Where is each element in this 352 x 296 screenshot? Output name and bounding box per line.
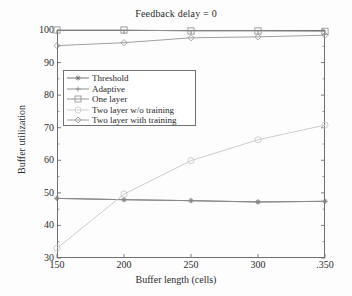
legend-label: Two layer w/o training: [90, 105, 174, 115]
star-marker: [76, 76, 81, 81]
chart-canvas: [0, 0, 352, 296]
legend-item[interactable]: Two layer w/o training: [64, 105, 195, 116]
legend-item[interactable]: Two layer with training: [64, 115, 195, 126]
legend-label: Two layer with training: [90, 115, 177, 125]
x-tick-label: .350: [303, 259, 347, 271]
legend-item[interactable]: Adaptive: [64, 84, 195, 95]
series-two-layer-w-o-training: [54, 122, 328, 251]
legend-marker-sample: [66, 73, 90, 83]
series-line: [57, 125, 325, 248]
legend-marker-sample: [66, 84, 90, 94]
x-tick-label: 300: [236, 259, 280, 271]
chart-legend: ThresholdAdaptiveOne layerTwo layer w/o …: [63, 70, 196, 126]
x-tick-label: 150: [35, 259, 79, 271]
legend-label: One layer: [90, 94, 127, 104]
x-tick-label: 250: [169, 259, 213, 271]
plus-marker: [54, 196, 59, 201]
legend-label: Adaptive: [90, 84, 125, 94]
plus-marker: [188, 198, 193, 203]
legend-marker-sample: [66, 94, 90, 104]
legend-marker-sample: [66, 105, 90, 115]
plus-marker: [75, 86, 80, 91]
x-axis-label: Buffer length (cells): [0, 274, 352, 285]
legend-item[interactable]: Threshold: [64, 73, 195, 84]
legend-marker-sample: [66, 115, 90, 125]
series-adaptive: [54, 196, 327, 205]
plus-marker: [322, 199, 327, 204]
plus-marker: [121, 197, 126, 202]
legend-label: Threshold: [90, 73, 129, 83]
x-tick-label: 200: [102, 259, 146, 271]
chart-figure: Feedback delay = 0 Buffer utilization 30…: [0, 0, 352, 296]
series-two-layer-with-training: [54, 32, 328, 49]
x-axis-tick-labels: 150200250300.350: [0, 259, 352, 275]
legend-item[interactable]: One layer: [64, 94, 195, 105]
plus-marker: [255, 199, 260, 204]
